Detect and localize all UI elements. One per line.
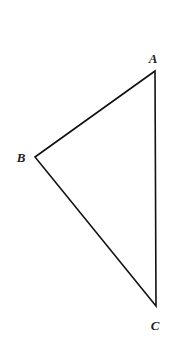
- triangle-abc: [35, 71, 156, 306]
- vertex-label-b: B: [16, 150, 26, 165]
- vertex-label-c: C: [151, 318, 160, 333]
- triangle-diagram: A B C: [0, 0, 180, 340]
- vertex-label-a: A: [148, 51, 158, 66]
